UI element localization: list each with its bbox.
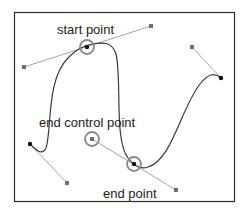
right-handle-line — [192, 47, 221, 78]
end-control-point-label: end control point — [39, 115, 136, 130]
control-points — [22, 24, 194, 192]
bezier-diagram: start point end control point end point — [0, 0, 245, 213]
end-control-point[interactable] — [90, 137, 94, 141]
left-handle-point[interactable] — [65, 181, 69, 185]
handle-lines — [24, 26, 221, 190]
left-anchor[interactable] — [28, 142, 32, 146]
bezier-curve — [30, 43, 221, 168]
diagram-frame — [15, 13, 235, 202]
end-point-anchor[interactable] — [132, 162, 136, 166]
start-handle-in-point[interactable] — [22, 65, 26, 69]
anchor-points — [28, 45, 223, 166]
start-handle-out-point[interactable] — [149, 24, 153, 28]
start-point-anchor[interactable] — [85, 45, 89, 49]
end-point-label: end point — [103, 186, 157, 201]
highlight-circles — [80, 40, 141, 171]
right-handle-point[interactable] — [190, 45, 194, 49]
end-handle-out-point[interactable] — [174, 188, 178, 192]
right-anchor[interactable] — [219, 76, 223, 80]
start-point-label: start point — [57, 22, 114, 37]
